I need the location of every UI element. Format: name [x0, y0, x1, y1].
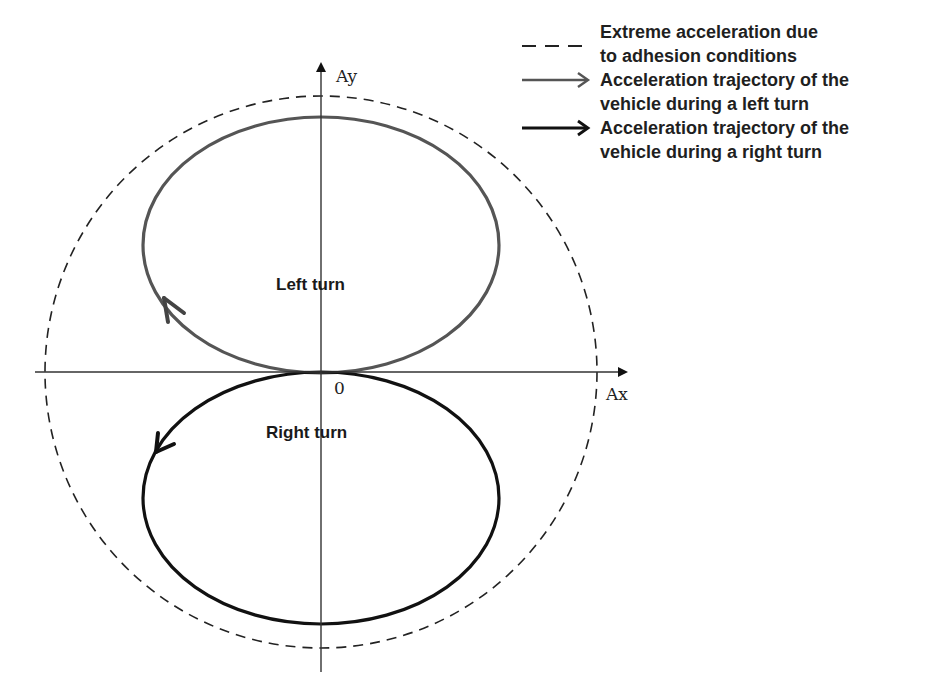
black-arrow-icon [520, 118, 592, 138]
legend-item-left-turn: Acceleration trajectory of the vehicle d… [520, 68, 920, 116]
legend-label-line1: Acceleration trajectory of the [600, 116, 920, 140]
legend-label-line1: Acceleration trajectory of the [600, 68, 920, 92]
origin-label: 0 [334, 378, 345, 398]
legend: Extreme acceleration due to adhesion con… [520, 20, 920, 164]
legend-item-right-turn: Acceleration trajectory of the vehicle d… [520, 116, 920, 164]
legend-label-line2: vehicle during a left turn [600, 92, 920, 116]
dashed-line-icon [520, 36, 592, 56]
legend-label-line2: vehicle during a right turn [600, 140, 920, 164]
right-turn-label: Right turn [266, 423, 347, 442]
legend-label-line2: to adhesion conditions [600, 44, 920, 68]
y-axis-label: Ay [335, 66, 358, 86]
left-turn-label: Left turn [276, 275, 345, 294]
legend-item-adhesion-limit: Extreme acceleration due to adhesion con… [520, 20, 920, 68]
legend-label-line1: Extreme acceleration due [600, 20, 920, 44]
gray-arrow-icon [520, 70, 592, 90]
x-axis-label: Ax [605, 384, 628, 404]
